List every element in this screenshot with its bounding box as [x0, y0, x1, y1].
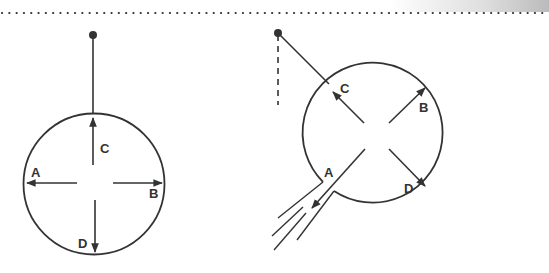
- right-label-c: C: [340, 81, 350, 96]
- diagram-canvas: C A B D C B D A: [0, 0, 549, 273]
- left-circle: [24, 114, 165, 255]
- right-label-d: D: [404, 181, 413, 196]
- right-string: [278, 33, 329, 84]
- left-label-a: A: [31, 165, 41, 180]
- right-label-b: B: [419, 100, 428, 115]
- left-label-c: C: [100, 141, 110, 156]
- left-label-b: B: [149, 186, 158, 201]
- left-figure: C A B D: [24, 31, 165, 255]
- diagram-svg: C A B D C B D A: [0, 0, 549, 273]
- right-label-a: A: [324, 165, 334, 180]
- left-label-d: D: [78, 236, 87, 251]
- jet-line-1: [278, 182, 323, 218]
- right-figure: C B D A: [272, 29, 443, 250]
- right-arrow-c: [333, 92, 364, 123]
